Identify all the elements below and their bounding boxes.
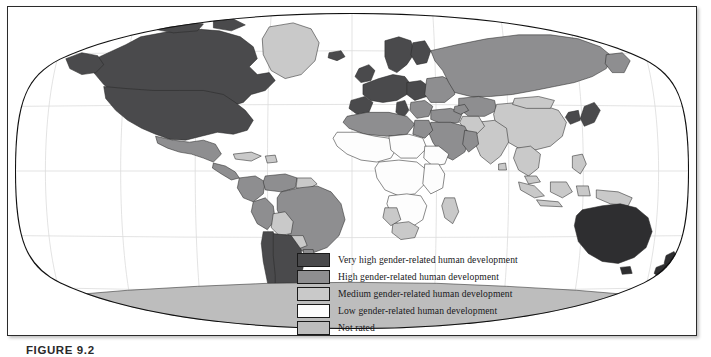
figure-caption: FIGURE 9.2: [26, 344, 95, 356]
legend-item-medium: Medium gender-related human development: [297, 285, 537, 302]
legend-swatch-low: [297, 304, 330, 318]
legend-label-not-rated: Not rated: [338, 323, 375, 333]
legend-swatch-not-rated: [297, 321, 330, 335]
region-sulawesi: [576, 186, 590, 196]
legend-label-high: High gender-related human development: [338, 272, 499, 282]
legend-swatch-high: [297, 270, 330, 284]
map-legend: Very high gender-related human developme…: [297, 251, 537, 336]
region-caribbean-2: [265, 155, 277, 163]
legend-swatch-medium: [297, 287, 330, 301]
legend-item-very-high: Very high gender-related human developme…: [297, 251, 537, 268]
legend-item-low: Low gender-related human development: [297, 302, 537, 319]
legend-item-high: High gender-related human development: [297, 268, 537, 285]
figure-container: Very high gender-related human developme…: [0, 0, 711, 357]
legend-label-low: Low gender-related human development: [338, 306, 497, 316]
legend-label-very-high: Very high gender-related human developme…: [338, 255, 518, 265]
legend-item-not-rated: Not rated: [297, 319, 537, 336]
region-sri-lanka: [499, 163, 507, 170]
legend-label-medium: Medium gender-related human development: [338, 289, 512, 299]
legend-swatch-very-high: [297, 253, 330, 267]
region-tasmania: [620, 266, 632, 274]
map-frame: Very high gender-related human developme…: [7, 6, 697, 336]
